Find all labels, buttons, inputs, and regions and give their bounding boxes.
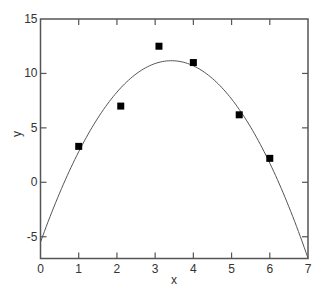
axis-ticks — [41, 19, 309, 259]
y-tick-label: 15 — [24, 12, 38, 26]
x-tick-label: 1 — [75, 262, 82, 276]
y-tick-label: -5 — [27, 230, 38, 244]
plot-border — [41, 19, 309, 259]
x-tick-label: 7 — [305, 262, 312, 276]
data-point-marker — [190, 59, 197, 66]
x-tick-label: 4 — [190, 262, 197, 276]
x-axis-label: x — [171, 273, 177, 287]
data-point-marker — [236, 111, 243, 118]
y-tick-label: 5 — [31, 121, 38, 135]
x-tick-label: 3 — [152, 262, 159, 276]
y-tick-label: 10 — [24, 66, 38, 80]
data-point-marker — [155, 43, 162, 50]
data-point-marker — [117, 103, 124, 110]
y-tick-label: 0 — [31, 175, 38, 189]
y-axis-label: y — [10, 131, 24, 137]
x-tick-label: 6 — [266, 262, 273, 276]
plot-frame — [41, 19, 309, 259]
y-tick-labels: -5051015 — [24, 12, 38, 244]
x-tick-label: 2 — [114, 262, 121, 276]
data-point-marker — [266, 155, 273, 162]
x-tick-label: 5 — [228, 262, 235, 276]
data-point-marker — [75, 143, 82, 150]
x-tick-label: 0 — [37, 262, 44, 276]
chart-canvas: 01234567 -5051015 x y — [0, 0, 327, 296]
